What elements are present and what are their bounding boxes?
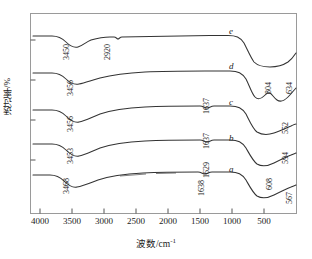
x-tick-3000: 3000 [95, 216, 113, 226]
curve-label-b: b [229, 133, 234, 143]
curve-label-d: d [229, 61, 234, 71]
peak-label-3468-a: 3468 [62, 178, 71, 194]
x-tick-1500: 1500 [191, 216, 209, 226]
peak-label-567-a: 567 [285, 192, 294, 204]
x-axis-label: 波数/cm-1 [0, 236, 312, 250]
peak-label-3456-d: 3456 [66, 80, 75, 96]
peak-label-804-d: 804 [264, 82, 273, 94]
peak-label-3453-b: 3453 [66, 148, 75, 164]
peak-label-594-b: 594 [281, 152, 290, 164]
peak-label-1637-b: 1637 [202, 133, 211, 149]
peak-label-3450-e: 3450 [62, 44, 71, 60]
peak-label-608-a: 608 [265, 178, 274, 190]
x-tick-4000: 4000 [31, 216, 49, 226]
peak-label-552-c: 552 [281, 122, 290, 134]
x-tick-500: 500 [257, 216, 271, 226]
x-axis-label-exponent: -1 [170, 237, 176, 245]
x-tick-2500: 2500 [127, 216, 145, 226]
peak-label-1637-c: 1637 [202, 98, 211, 114]
curve-label-c: c [229, 97, 233, 107]
curve-label-a: a [229, 164, 234, 174]
x-tick-3500: 3500 [63, 216, 81, 226]
y-axis-label: 透过率/% [2, 78, 16, 115]
peak-label-634-d: 634 [285, 82, 294, 94]
x-tick-1000: 1000 [223, 216, 241, 226]
curve-label-e: e [229, 26, 233, 36]
x-axis-label-text: 波数/cm [136, 239, 170, 249]
peak-label-1629-a: 1629 [202, 162, 211, 178]
peak-label-2920-e: 2920 [103, 44, 112, 60]
ftir-spectra-figure: 透过率/% 4000 3500 3000 2500 2000 1500 1000… [0, 0, 312, 259]
x-tick-2000: 2000 [159, 216, 177, 226]
peak-label-3456-c: 3456 [66, 116, 75, 132]
peak-label-1638-a: 1638 [197, 180, 206, 196]
